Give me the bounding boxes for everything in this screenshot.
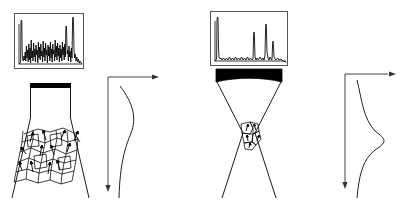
broad-intensity-profile [105, 74, 159, 198]
broad-profile-curve [119, 86, 134, 198]
x-axis-arrowhead [152, 74, 159, 79]
right-spectrum-box [211, 12, 288, 66]
scientific-figure-svg [0, 0, 417, 204]
sharp-profile-curve [357, 80, 384, 198]
curved-focusing-bar [216, 69, 282, 82]
focused-beam-panel [211, 12, 397, 199]
unfocused-beam-panel [12, 14, 159, 199]
y-axis-arrowhead [105, 185, 110, 192]
x-axis-arrowhead-right [389, 71, 396, 76]
figure-canvas [0, 0, 417, 204]
focused-beam [217, 82, 281, 198]
polycrystalline-grains [14, 128, 80, 184]
flat-aperture-bar [30, 83, 71, 88]
sharp-intensity-profile [342, 71, 396, 198]
y-axis-arrowhead-right [342, 182, 347, 189]
grain-orientation-arrows [19, 130, 79, 174]
